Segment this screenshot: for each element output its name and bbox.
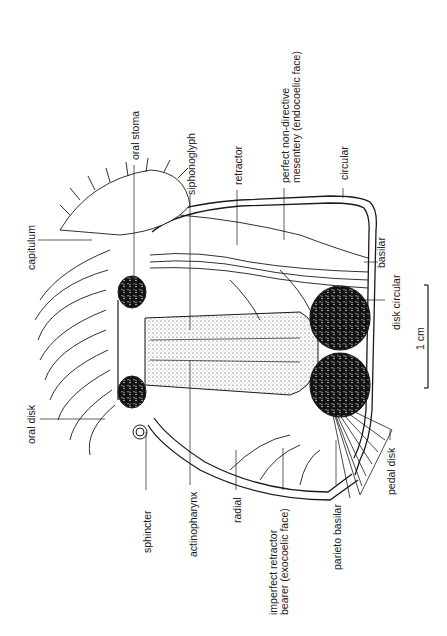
anemone-drawing — [0, 0, 447, 636]
acrorhagus-upper — [118, 276, 146, 308]
label-parieto-basilar: parieto basilar — [332, 504, 343, 570]
label-perfect-mesentery: perfect non-directive mesentery (endocoe… — [280, 51, 302, 183]
label-radial: radial — [232, 497, 243, 523]
label-imperfect-retractor-line2: bearer (exocoelic face) — [279, 508, 290, 615]
label-oral-disk: oral disk — [26, 405, 37, 444]
label-perfect-mesentery-line2: mesentery (endocoelic face) — [291, 51, 302, 183]
tentacles-oral-disk — [35, 250, 118, 455]
tentacles-upper — [60, 158, 190, 235]
label-siphonoglyph: siphonoglyph — [186, 133, 197, 195]
anatomy-diagram: oral stoma siphonoglyph retractor perfec… — [0, 0, 447, 636]
label-pedal-disk: pedal disk — [386, 448, 397, 495]
label-basilar: basilar — [376, 237, 387, 268]
label-scale-bar: 1 cm — [415, 327, 426, 350]
label-actinopharynx: actinopharynx — [188, 492, 199, 557]
acrorhagus-lower — [118, 376, 146, 408]
label-disk-circular: disk circular — [391, 275, 402, 330]
label-capitulum: capitulum — [26, 225, 37, 270]
label-oral-stoma: oral stoma — [130, 111, 141, 160]
gonad-lower — [310, 353, 370, 417]
actinopharynx — [145, 312, 318, 395]
label-sphincter: sphincter — [142, 510, 153, 553]
gonad-upper — [310, 286, 370, 350]
label-retractor: retractor — [233, 146, 244, 185]
label-circular: circular — [339, 146, 350, 180]
sphincter-loop — [133, 425, 147, 439]
label-imperfect-retractor: imperfect retractor bearer (exocoelic fa… — [268, 508, 290, 615]
